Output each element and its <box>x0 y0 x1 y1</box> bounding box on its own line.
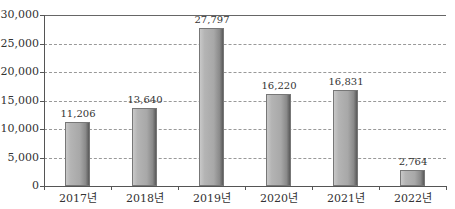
x-category-label: 2017년 <box>48 189 108 205</box>
y-tick-mark <box>40 44 44 45</box>
bar-2020년 <box>266 94 291 186</box>
y-tick-mark <box>40 129 44 130</box>
bar-2022년 <box>400 170 425 186</box>
grid-line <box>44 129 446 130</box>
y-tick-label: 25,000 <box>0 37 39 50</box>
y-tick-mark <box>40 15 44 16</box>
x-tick-mark <box>379 186 380 190</box>
x-tick-mark <box>245 186 246 190</box>
x-category-label: 2021년 <box>316 189 376 205</box>
y-tick-label: 0 <box>0 179 39 192</box>
y-tick-mark <box>40 101 44 102</box>
value-label: 11,206 <box>53 108 103 119</box>
x-category-label: 2020년 <box>249 189 309 205</box>
value-label: 16,831 <box>321 76 371 87</box>
value-label: 2,764 <box>388 156 438 167</box>
y-tick-label: 30,000 <box>0 8 39 21</box>
bar-2018년 <box>132 108 157 186</box>
y-tick-mark <box>40 72 44 73</box>
bar-2017년 <box>65 122 90 186</box>
y-tick-mark <box>40 158 44 159</box>
bar-chart: 05,00010,00015,00020,00025,00030,000 11,… <box>0 0 455 209</box>
y-tick-label: 15,000 <box>0 94 39 107</box>
x-tick-mark <box>111 186 112 190</box>
bar-2021년 <box>333 90 358 186</box>
value-label: 27,797 <box>187 14 237 25</box>
bar-2019년 <box>199 28 224 186</box>
x-tick-mark <box>312 186 313 190</box>
y-axis <box>44 15 45 186</box>
grid-line <box>44 158 446 159</box>
grid-line <box>44 72 446 73</box>
value-label: 16,220 <box>254 80 304 91</box>
y-tick-label: 20,000 <box>0 65 39 78</box>
x-category-label: 2019년 <box>182 189 242 205</box>
x-category-label: 2018년 <box>115 189 175 205</box>
x-tick-mark <box>44 186 45 190</box>
grid-line <box>44 101 446 102</box>
y-tick-label: 5,000 <box>0 151 39 164</box>
plot-top-border <box>44 15 446 16</box>
y-tick-label: 10,000 <box>0 122 39 135</box>
value-label: 13,640 <box>120 94 170 105</box>
x-tick-mark <box>446 186 447 190</box>
grid-line <box>44 44 446 45</box>
x-tick-mark <box>178 186 179 190</box>
x-category-label: 2022년 <box>383 189 443 205</box>
